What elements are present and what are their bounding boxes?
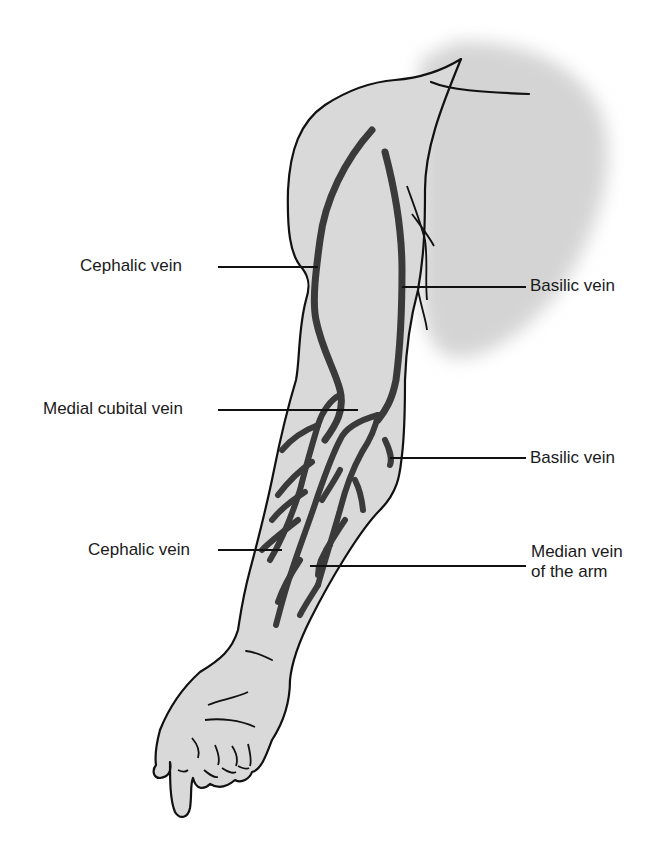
arm-outline — [154, 59, 461, 817]
label-cephalic-vein-upper: Cephalic vein — [80, 256, 182, 276]
label-basilic-vein-lower: Basilic vein — [530, 448, 615, 468]
arm-vein-illustration — [0, 0, 672, 842]
label-median-vein-line1: Median vein — [531, 542, 623, 562]
label-basilic-vein-upper: Basilic vein — [530, 276, 615, 296]
label-median-vein-line2: of the arm — [531, 562, 608, 582]
label-medial-cubital-vein: Medial cubital vein — [43, 399, 183, 419]
label-cephalic-vein-lower: Cephalic vein — [88, 540, 190, 560]
